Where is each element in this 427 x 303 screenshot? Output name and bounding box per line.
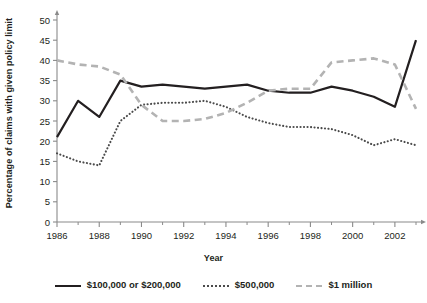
svg-text:15: 15 xyxy=(39,156,50,167)
svg-text:2002: 2002 xyxy=(384,230,405,241)
svg-text:1994: 1994 xyxy=(215,230,236,241)
legend-swatch-dotted-icon xyxy=(203,281,229,289)
legend-item-1m: $1 million xyxy=(296,279,372,290)
svg-text:40: 40 xyxy=(39,55,50,66)
legend-item-100k-200k: $100,000 or $200,000 xyxy=(55,279,181,290)
series-line-1 xyxy=(57,101,416,166)
svg-text:1998: 1998 xyxy=(300,230,321,241)
svg-text:1990: 1990 xyxy=(131,230,152,241)
svg-text:50: 50 xyxy=(39,15,50,26)
legend-swatch-dashed-icon xyxy=(296,281,322,289)
x-axis-label: Year xyxy=(0,253,427,263)
svg-text:30: 30 xyxy=(39,95,50,106)
y-axis-label: Percentage of claims with given policy l… xyxy=(2,0,16,228)
svg-text:25: 25 xyxy=(39,116,50,127)
svg-text:1988: 1988 xyxy=(89,230,110,241)
svg-text:20: 20 xyxy=(39,136,50,147)
svg-text:1996: 1996 xyxy=(258,230,279,241)
svg-text:1992: 1992 xyxy=(173,230,194,241)
legend-label-500k: $500,000 xyxy=(235,279,275,290)
svg-text:35: 35 xyxy=(39,75,50,86)
x-axis: 198619881990199219941996199820002002 xyxy=(46,220,426,241)
svg-text:5: 5 xyxy=(45,196,50,207)
chart-figure: 05101520253035404550 1986198819901992199… xyxy=(0,0,427,303)
svg-text:2000: 2000 xyxy=(342,230,363,241)
legend-swatch-solid-icon xyxy=(55,281,81,289)
svg-text:45: 45 xyxy=(39,35,50,46)
data-series-group xyxy=(57,40,416,165)
legend-label-1m: $1 million xyxy=(328,279,372,290)
svg-text:1986: 1986 xyxy=(46,230,67,241)
y-axis: 05101520253035404550 xyxy=(39,10,59,228)
svg-text:10: 10 xyxy=(39,176,50,187)
series-line-0 xyxy=(57,40,416,137)
legend-item-500k: $500,000 xyxy=(203,279,275,290)
legend-label-100k-200k: $100,000 or $200,000 xyxy=(87,279,181,290)
svg-text:0: 0 xyxy=(45,217,50,228)
chart-legend: $100,000 or $200,000 $500,000 $1 million xyxy=(0,279,427,290)
